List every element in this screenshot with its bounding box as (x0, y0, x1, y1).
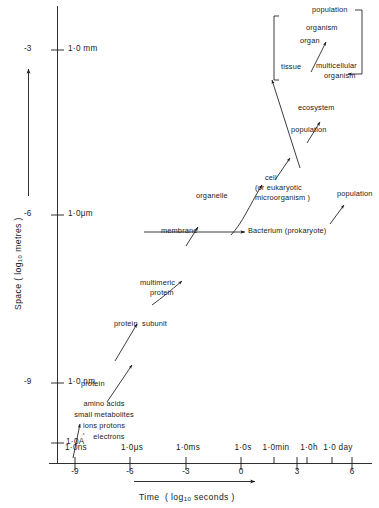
y-tick-value--3: -3 (24, 44, 31, 53)
x-axis-title: Time ( log10 seconds ) (139, 492, 235, 502)
x-tick-value--6: -6 (126, 467, 133, 476)
arrow-subunit-to-multimeric (115, 324, 137, 361)
label-membrane: membrane (161, 227, 198, 236)
arrow-cell-to-tissue (272, 80, 300, 168)
label-multicellular: multicellular (316, 62, 357, 71)
x-axis (49, 457, 372, 470)
x-axis-title-main: Time ( log (139, 492, 184, 502)
label-protein: protein (81, 380, 105, 389)
left-group-bracket (274, 16, 279, 80)
label-ecosystem: ecosystem (298, 104, 335, 113)
arrow-bacterium-to-population (330, 205, 344, 224)
x-tick-value-0: 0 (239, 467, 244, 476)
y-axis-title-tail: metres ) (13, 217, 23, 255)
y-axis-title: Space ( log10 metres ) (13, 217, 23, 310)
label-small-metabolites: small metabolites (74, 411, 134, 420)
angstrom-ring-icon: ° (83, 433, 86, 439)
x-tick-unit-1-0-min: 1·0min (263, 443, 290, 452)
x-tick-unit-1-0-ms: 1·0ms (176, 443, 200, 452)
y-axis-title-subscript: 10 (17, 255, 23, 262)
x-tick-value-3: 3 (295, 467, 300, 476)
label-organ: organ (300, 37, 320, 46)
diagram-vectors (0, 0, 379, 508)
label-multimeric-protein: protein (150, 289, 174, 298)
label-top-population: population (312, 6, 348, 15)
label-cell: cell (265, 174, 277, 183)
label-organelle: organelle (196, 192, 228, 201)
label-protein-subunit: protein subunit (114, 320, 167, 329)
x-tick-unit-1-0-s: 1·0s (234, 443, 251, 452)
x-tick-unit-1-0-day: 1·0 day (323, 443, 352, 452)
x-tick-value--3: -3 (182, 467, 189, 476)
x-tick-value--9: -9 (71, 467, 78, 476)
label-amino-acids: amino acids (83, 400, 124, 409)
figure-canvas: Space ( log10 metres ) -3 1·0 mm -6 1·0μ… (0, 0, 379, 508)
x-axis-title-tail: seconds ) (191, 492, 235, 502)
arrow-cell-to-population (275, 158, 290, 180)
x-tick-value-6: 6 (350, 467, 355, 476)
y-tick-unit-1-0-um: 1·0μm (68, 209, 93, 218)
label-electrons: electrons (93, 433, 124, 442)
x-tick-unit-1-0-ns: 1·0ns (65, 443, 87, 452)
y-axis (51, 6, 64, 464)
label-organism: organism (306, 24, 338, 33)
y-tick-value--6: -6 (24, 209, 31, 218)
arrow-protein-to-subunit (107, 365, 132, 402)
label-bacterium-population: population (337, 190, 373, 199)
x-tick-unit-1-0-us: 1·0μs (121, 443, 143, 452)
label-ions-protons: ions protons (83, 422, 125, 431)
label-cell-alt-line2: microorganism ) (255, 194, 310, 203)
label-multicellular-organism: organism (324, 72, 356, 81)
y-tick-value--9: -9 (24, 377, 31, 386)
label-multimeric: multimeric (140, 279, 175, 288)
y-axis-title-main: Space ( log (13, 262, 23, 310)
label-tissue: tissue (281, 63, 301, 72)
y-tick-unit-1-0-mm: 1·0 mm (68, 44, 98, 53)
x-tick-unit-1-0-h: 1·0h (300, 443, 318, 452)
label-cell-alt-line1: (or eukaryotic (255, 184, 302, 193)
label-bacterium-prokaryote: Bacterium (prokaryote) (248, 227, 326, 236)
label-cell-population: population (291, 126, 327, 135)
